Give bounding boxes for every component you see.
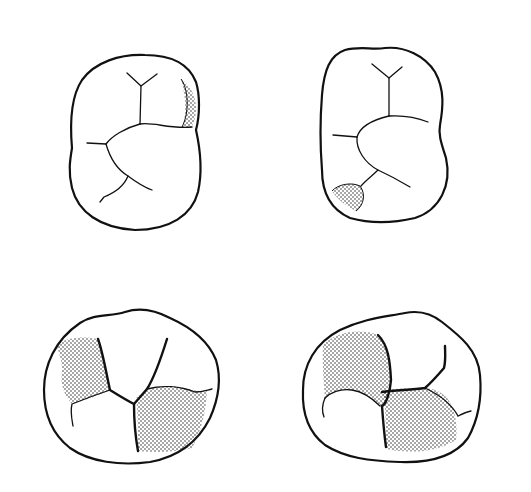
shaded-area <box>332 184 363 211</box>
tooth-bottom-right <box>303 312 481 462</box>
shaded-area <box>323 332 391 406</box>
shaded-area <box>57 337 110 404</box>
shaded-area <box>181 79 196 128</box>
shaded-area <box>136 386 207 452</box>
tooth-bottom-left <box>44 310 219 464</box>
tooth-top-right <box>321 48 448 222</box>
shaded-area <box>383 388 457 452</box>
tooth-illustration <box>0 0 531 492</box>
tooth-top-left <box>70 55 201 230</box>
